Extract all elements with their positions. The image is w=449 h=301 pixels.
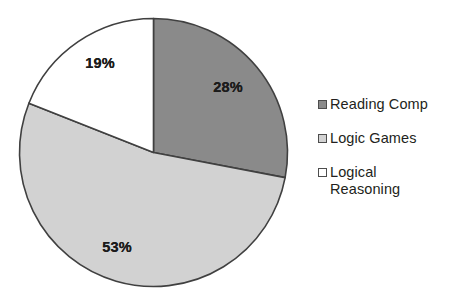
pie-chart-figure: 28% 53% 19% Reading Comp Logic Games Log…	[0, 0, 449, 301]
pie-slice-label-logical-reasoning: 19%	[85, 55, 115, 71]
pie-slice-label-reading-comp: 28%	[213, 79, 243, 95]
pie-slice-reading-comp[interactable]	[154, 18, 288, 177]
legend-swatch-icon	[318, 168, 327, 177]
legend-item-reading-comp[interactable]: Reading Comp	[318, 96, 448, 113]
legend-item-label: Reading Comp	[330, 96, 428, 113]
chart-legend: Reading Comp Logic Games Logical Reasoni…	[318, 96, 448, 198]
legend-item-label: Logical Reasoning	[330, 164, 448, 198]
pie-slices	[20, 18, 288, 286]
pie-svg	[0, 0, 310, 301]
legend-item-logic-games[interactable]: Logic Games	[318, 130, 448, 147]
legend-swatch-icon	[318, 134, 327, 143]
legend-swatch-icon	[318, 100, 327, 109]
legend-item-logical-reasoning[interactable]: Logical Reasoning	[318, 164, 448, 198]
pie-slice-label-logic-games: 53%	[102, 239, 132, 255]
pie-plot-area: 28% 53% 19%	[0, 0, 310, 301]
legend-item-label: Logic Games	[330, 130, 417, 147]
